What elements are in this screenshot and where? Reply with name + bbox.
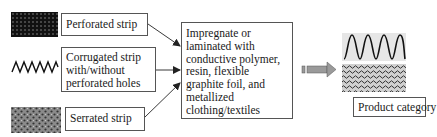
arrow-serrated-to-process bbox=[145, 83, 180, 117]
arrow-perforated-to-process bbox=[148, 24, 180, 46]
connector-arrows bbox=[0, 0, 437, 137]
block-arrow-to-product bbox=[302, 62, 336, 77]
